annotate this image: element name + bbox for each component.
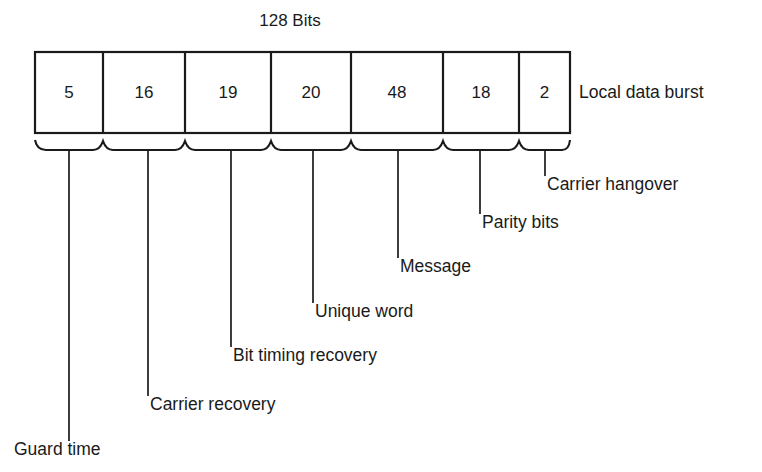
segment-label-unique-word: Unique word	[315, 303, 413, 321]
segment-label-carrier-hangover: Carrier hangover	[547, 176, 678, 194]
total-bits-title: 128 Bits	[230, 12, 350, 29]
cell-value-carrier-recovery: 16	[103, 84, 185, 101]
diagram-canvas	[0, 0, 762, 472]
leader-line-group	[69, 150, 545, 441]
cell-value-bit-timing-recovery: 19	[185, 84, 271, 101]
brace-group	[35, 140, 570, 150]
segment-label-guard-time: Guard time	[14, 441, 101, 459]
cell-value-parity-bits: 18	[443, 84, 519, 101]
cell-value-carrier-hangover: 2	[519, 84, 570, 101]
segment-label-message: Message	[400, 258, 471, 276]
cell-value-message: 48	[351, 84, 443, 101]
segment-label-carrier-recovery: Carrier recovery	[150, 396, 275, 414]
burst-right-label: Local data burst	[579, 84, 704, 102]
burst-structure-diagram: 128 Bits 5 16 19 20 48 18 2 Local data b…	[0, 0, 762, 472]
cell-value-unique-word: 20	[271, 84, 351, 101]
segment-label-parity-bits: Parity bits	[482, 214, 559, 232]
segment-label-bit-timing-recovery: Bit timing recovery	[233, 347, 377, 365]
cell-braces	[35, 140, 570, 150]
cell-value-guard-time: 5	[35, 84, 103, 101]
